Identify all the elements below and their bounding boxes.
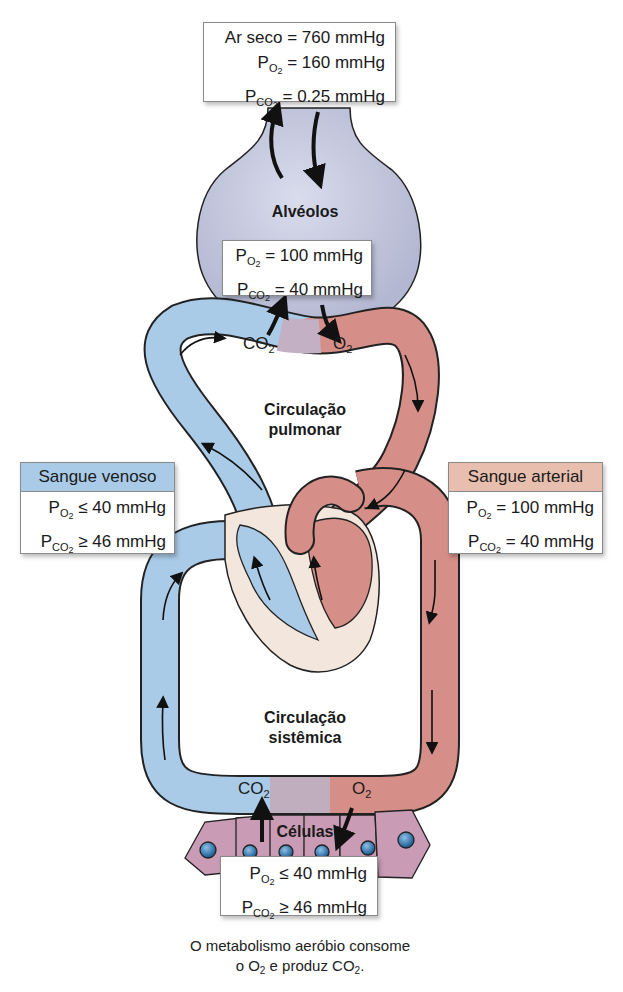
- alveoli-label: Alvéolos: [250, 202, 360, 222]
- heart: [225, 491, 379, 672]
- venous-blood-header: Sangue venoso: [21, 463, 174, 492]
- alveoli-po2: PO2 = 100 mmHg: [223, 243, 363, 277]
- dry-air-box: Ar seco = 760 mmHg PO2 = 160 mmHg PCO2 =…: [203, 22, 396, 102]
- arterial-po2: PO2 = 100 mmHg: [449, 495, 594, 529]
- dry-air-po2: PO2 = 160 mmHg: [204, 50, 385, 84]
- caption-line2: o O2 e produz CO2.: [150, 956, 450, 981]
- venous-blood-box: Sangue venoso PO2 ≤ 40 mmHg PCO2 ≥ 46 mm…: [20, 462, 175, 554]
- alveoli-pco2: PCO2 = 40 mmHg: [223, 277, 363, 311]
- caption-line1: O metabolismo aeróbio consome: [150, 936, 450, 956]
- alveoli-box: PO2 = 100 mmHg PCO2 = 40 mmHg: [222, 240, 372, 296]
- pulmonary-co2-label: CO2: [243, 334, 275, 355]
- caption: O metabolismo aeróbio consome o O2 e pro…: [150, 936, 450, 981]
- pulmonary-o2-label: O2: [333, 334, 352, 355]
- venous-pco2: PCO2 ≥ 46 mmHg: [21, 529, 166, 563]
- cells-po2: PO2 ≤ 40 mmHg: [221, 861, 367, 895]
- dry-air-pressure: Ar seco = 760 mmHg: [204, 25, 385, 50]
- systemic-o2-label: O2: [352, 779, 371, 800]
- systemic-circulation-line1: Circulação: [230, 708, 380, 728]
- cells-label: Células: [265, 822, 345, 842]
- cells-box: PO2 ≤ 40 mmHg PCO2 ≥ 46 mmHg: [220, 856, 378, 916]
- venous-po2: PO2 ≤ 40 mmHg: [21, 495, 166, 529]
- pulmonary-circulation-label: Circulação pulmonar: [235, 400, 375, 440]
- systemic-circulation-label: Circulação sistêmica: [230, 708, 380, 748]
- arterial-pco2: PCO2 = 40 mmHg: [449, 529, 594, 563]
- arterial-blood-box: Sangue arterial PO2 = 100 mmHg PCO2 = 40…: [448, 462, 603, 554]
- dry-air-pco2: PCO2 = 0.25 mmHg: [204, 84, 385, 118]
- systemic-circulation-line2: sistêmica: [230, 728, 380, 748]
- cells-pco2: PCO2 ≥ 46 mmHg: [221, 895, 367, 929]
- arterial-blood-header: Sangue arterial: [449, 463, 602, 492]
- pulmonary-circulation-line1: Circulação: [235, 400, 375, 420]
- pulmonary-circulation-line2: pulmonar: [235, 420, 375, 440]
- systemic-co2-label: CO2: [238, 779, 270, 800]
